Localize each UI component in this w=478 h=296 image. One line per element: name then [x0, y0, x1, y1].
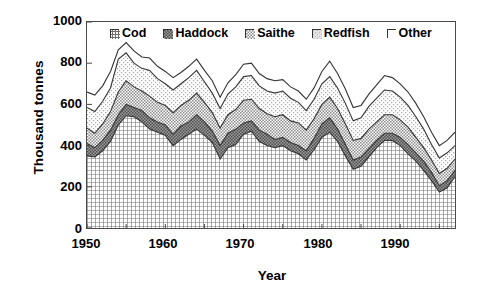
- x-tick-1960: 1960: [133, 236, 193, 251]
- x-tick-1980: 1980: [288, 236, 348, 251]
- y-tick-1000: 1000: [38, 16, 82, 26]
- x-tick-1970: 1970: [210, 236, 270, 251]
- y-tick-200: 200: [38, 182, 82, 192]
- y-tick-0: 0: [38, 224, 82, 234]
- stacked-area-bands: [87, 43, 455, 228]
- y-tick-600: 600: [38, 99, 82, 109]
- y-axis-tick-labels: 1000 800 600 400 200 0: [34, 0, 82, 240]
- chart-canvas: [87, 22, 455, 228]
- plot-area: [86, 21, 456, 229]
- x-axis-title: Year: [86, 268, 458, 283]
- x-tick-1990: 1990: [365, 236, 425, 251]
- x-tick-1950: 1950: [56, 236, 116, 251]
- x-axis-tick-labels: 1950 1960 1970 1980 1990: [0, 236, 478, 256]
- figure-stacked-area-chart: Thousand tonnes 1000 800 600 400 200 0: [0, 0, 478, 296]
- y-tick-400: 400: [38, 141, 82, 151]
- y-tick-800: 800: [38, 57, 82, 67]
